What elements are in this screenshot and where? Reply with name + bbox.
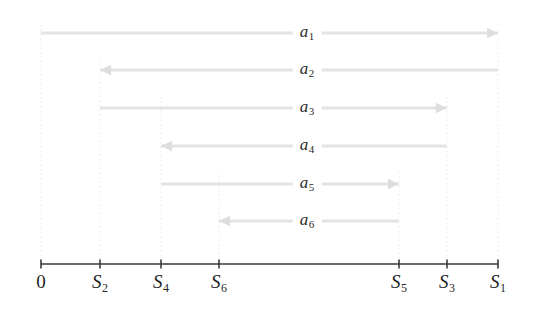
tick-s3-label-base: S [439,271,449,292]
tick-s4-label-base: S [153,271,163,292]
tick-s4-label: S4 [153,272,169,294]
arrow-a3-head [436,103,447,113]
arrow-a4-head [161,141,172,151]
arrow-a2-label-subscript: 2 [308,68,314,80]
arrow-a6-head [219,216,230,226]
arrow-a4-label-base: a [300,135,309,154]
arrow-a1-label: a1 [293,23,322,42]
guide-lines-group [41,25,498,260]
interval-arrow-diagram: a1a2a3a4a5a6 0S2S4S6S5S3S1 [0,0,539,311]
axis-group [41,260,498,269]
arrow-a4-label: a4 [293,136,322,155]
tick-s2-label-subscript: 2 [102,281,109,295]
diagram-canvas [0,0,539,311]
tick-s2-label: S2 [92,272,108,294]
arrow-a6-label-subscript: 6 [308,219,314,231]
arrow-a6-label: a6 [293,211,322,230]
arrow-a5-label-base: a [300,173,309,192]
arrow-a4-label-subscript: 4 [308,144,314,156]
tick-0-label-base: 0 [36,271,46,292]
arrow-a6-label-base: a [300,210,309,229]
tick-s3-label: S3 [439,272,455,294]
tick-s1-label-subscript: 1 [500,281,507,295]
arrow-a5-label-subscript: 5 [308,182,314,194]
arrow-a3-label-base: a [300,97,309,116]
arrows-group [41,28,498,226]
arrow-a3-label: a3 [293,98,322,117]
arrow-a2-label-base: a [300,59,309,78]
tick-s5-label-subscript: 5 [401,281,408,295]
tick-0-label: 0 [36,272,46,291]
tick-s6-label: S6 [211,272,227,294]
arrow-a5-head [388,179,399,189]
tick-s2-label-base: S [92,271,102,292]
tick-s4-label-subscript: 4 [163,281,170,295]
arrow-a2-head [100,65,111,75]
tick-s1-label: S1 [490,272,506,294]
arrow-a1-label-subscript: 1 [308,31,314,43]
tick-s6-label-subscript: 6 [221,281,228,295]
arrow-a2-label: a2 [293,60,322,79]
arrow-a1-head [487,28,498,38]
tick-s5-label-base: S [391,271,401,292]
tick-s6-label-base: S [211,271,221,292]
tick-s1-label-base: S [490,271,500,292]
tick-s5-label: S5 [391,272,407,294]
arrow-a1-label-base: a [300,22,309,41]
arrow-a5-label: a5 [293,174,322,193]
arrow-a3-label-subscript: 3 [308,106,314,118]
tick-s3-label-subscript: 3 [449,281,456,295]
